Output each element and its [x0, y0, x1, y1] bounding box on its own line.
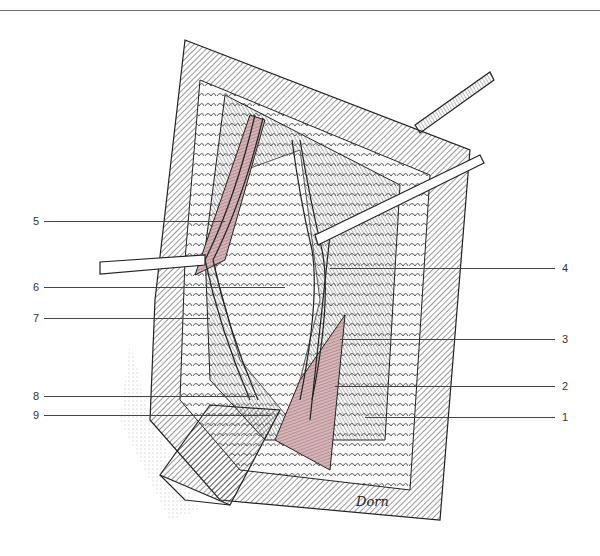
- artist-signature: Dorn: [356, 494, 389, 509]
- label-5: 5: [33, 215, 39, 227]
- label-7: 7: [33, 312, 39, 324]
- leader-line-6: [44, 287, 285, 288]
- anatomical-illustration: [0, 0, 600, 556]
- leader-line-3: [340, 339, 555, 340]
- leader-line-7: [44, 318, 210, 319]
- leader-line-1: [365, 417, 555, 418]
- leader-line-9: [44, 415, 270, 416]
- leader-line-2: [335, 386, 555, 387]
- label-1: 1: [562, 411, 568, 423]
- label-2: 2: [562, 380, 568, 392]
- leader-line-8: [44, 396, 255, 397]
- leader-line-4: [330, 268, 555, 269]
- label-4: 4: [562, 262, 568, 274]
- label-9: 9: [33, 409, 39, 421]
- label-8: 8: [33, 390, 39, 402]
- label-6: 6: [33, 281, 39, 293]
- leader-line-5: [44, 221, 225, 222]
- label-3: 3: [562, 333, 568, 345]
